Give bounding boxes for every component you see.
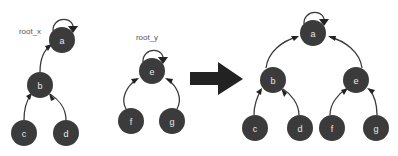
node-circle-g-middle[interactable] bbox=[159, 108, 185, 134]
node-circle-a-right[interactable] bbox=[300, 20, 326, 46]
edge-g-to-e-right bbox=[369, 89, 377, 115]
edge-b-to-a-right bbox=[266, 37, 297, 68]
node-circle-d-right[interactable] bbox=[287, 115, 313, 141]
union-find-figure: a b c d root_x bbox=[0, 0, 398, 156]
node-d-left[interactable]: d bbox=[53, 120, 79, 146]
node-circle-e-right[interactable] bbox=[343, 67, 369, 93]
node-c-left[interactable]: c bbox=[11, 120, 37, 146]
right-tree-group: a b e c d f g bbox=[242, 12, 389, 141]
node-f-middle[interactable]: f bbox=[118, 108, 144, 134]
left-tree-group: a b c d root_x bbox=[11, 19, 79, 146]
node-a-left[interactable]: a bbox=[49, 27, 75, 53]
edge-b-to-a bbox=[40, 45, 51, 72]
node-e-middle[interactable]: e bbox=[139, 58, 165, 84]
arrowhead-e-to-a-right bbox=[328, 36, 336, 41]
root-y-label: root_y bbox=[136, 33, 158, 42]
node-circle-a-left[interactable] bbox=[49, 27, 75, 53]
forest-diagram-svg: a b c d root_x bbox=[0, 0, 398, 156]
node-f-right[interactable]: f bbox=[319, 115, 345, 141]
node-circle-f-right[interactable] bbox=[319, 115, 345, 141]
root-x-label: root_x bbox=[19, 27, 41, 36]
middle-tree-group: e f g root_y bbox=[118, 33, 185, 135]
node-e-right[interactable]: e bbox=[343, 67, 369, 93]
node-circle-c-right[interactable] bbox=[242, 115, 268, 141]
node-circle-e-middle[interactable] bbox=[139, 58, 165, 84]
right-arrow-icon bbox=[190, 62, 243, 95]
node-g-right[interactable]: g bbox=[363, 115, 389, 141]
edge-g-to-e bbox=[167, 79, 179, 109]
arrowhead-g-to-e-right bbox=[367, 88, 375, 94]
node-g-middle[interactable]: g bbox=[159, 108, 185, 134]
edge-e-to-a-right bbox=[330, 37, 362, 68]
node-d-right[interactable]: d bbox=[287, 115, 313, 141]
node-circle-b-right[interactable] bbox=[260, 67, 286, 93]
node-b-left[interactable]: b bbox=[27, 72, 53, 98]
node-circle-f-middle[interactable] bbox=[118, 108, 144, 134]
node-circle-d-left[interactable] bbox=[53, 120, 79, 146]
node-b-right[interactable]: b bbox=[260, 67, 286, 93]
node-circle-g-right[interactable] bbox=[363, 115, 389, 141]
edge-f-to-e bbox=[124, 79, 137, 109]
node-circle-c-left[interactable] bbox=[11, 120, 37, 146]
node-a-right[interactable]: a bbox=[300, 20, 326, 46]
node-c-right[interactable]: c bbox=[242, 115, 268, 141]
node-circle-b-left[interactable] bbox=[27, 72, 53, 98]
